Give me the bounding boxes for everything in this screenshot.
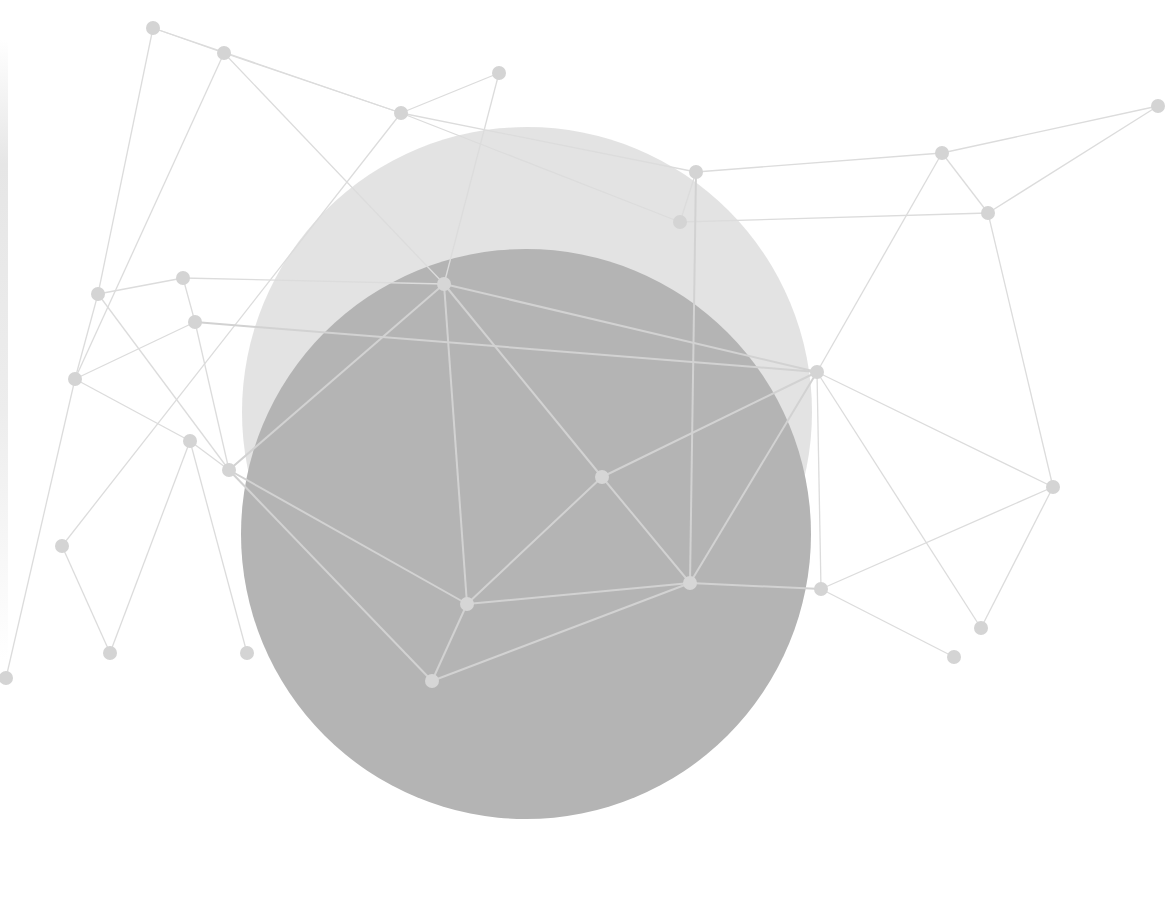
network-graphic xyxy=(0,0,1176,899)
network-node-dot-icon xyxy=(55,539,69,553)
network-node-dot-icon xyxy=(240,646,254,660)
network-node-dot-icon xyxy=(689,165,703,179)
network-edge xyxy=(190,441,247,653)
network-edge xyxy=(696,153,942,172)
network-edge xyxy=(942,153,988,213)
front-circle xyxy=(241,249,811,819)
network-edge xyxy=(821,589,954,657)
network-node-dot-icon xyxy=(1151,99,1165,113)
network-edge xyxy=(75,53,224,379)
circles-layer xyxy=(241,127,812,819)
network-edge xyxy=(817,372,821,589)
network-node-dot-icon xyxy=(394,106,408,120)
network-node-dot-icon xyxy=(222,463,236,477)
network-edge xyxy=(98,278,183,294)
network-node-dot-icon xyxy=(974,621,988,635)
network-edge xyxy=(821,487,1053,589)
network-edge xyxy=(988,213,1053,487)
network-node-dot-icon xyxy=(188,315,202,329)
network-node-dot-icon xyxy=(460,597,474,611)
network-node-dot-icon xyxy=(673,215,687,229)
network-edge xyxy=(981,487,1053,628)
network-node-dot-icon xyxy=(68,372,82,386)
network-node-dot-icon xyxy=(492,66,506,80)
network-node-dot-icon xyxy=(217,46,231,60)
network-node-dot-icon xyxy=(425,674,439,688)
network-node-dot-icon xyxy=(91,287,105,301)
network-edge xyxy=(817,153,942,372)
network-node-dot-icon xyxy=(683,576,697,590)
network-node-dot-icon xyxy=(947,650,961,664)
network-node-dot-icon xyxy=(176,271,190,285)
network-node-dot-icon xyxy=(0,671,13,685)
network-node-dot-icon xyxy=(437,277,451,291)
network-edge xyxy=(988,106,1158,213)
network-edge xyxy=(942,106,1158,153)
network-edge xyxy=(110,441,190,653)
network-node-dot-icon xyxy=(183,434,197,448)
network-node-dot-icon xyxy=(595,470,609,484)
network-node-dot-icon xyxy=(810,365,824,379)
network-node-dot-icon xyxy=(146,21,160,35)
network-node-dot-icon xyxy=(935,146,949,160)
network-edge xyxy=(62,546,110,653)
network-node-dot-icon xyxy=(981,206,995,220)
network-edge xyxy=(75,379,190,441)
network-edge xyxy=(817,372,1053,487)
network-edge xyxy=(6,379,75,678)
network-edge xyxy=(817,372,981,628)
network-node-dot-icon xyxy=(814,582,828,596)
network-edge xyxy=(75,322,195,379)
network-node-dot-icon xyxy=(103,646,117,660)
network-edge xyxy=(98,28,153,294)
network-edge xyxy=(224,53,401,113)
network-edge xyxy=(401,73,499,113)
network-node-dot-icon xyxy=(1046,480,1060,494)
